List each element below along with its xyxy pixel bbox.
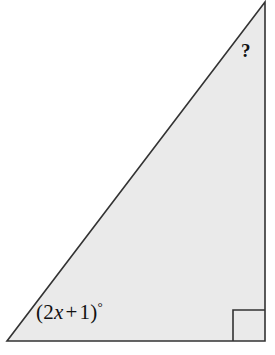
triangle-shape: [7, 2, 265, 341]
angle-expression-label: (2x+1)°: [36, 302, 103, 323]
right-triangle-diagram: (2x+1)° ?: [0, 0, 275, 355]
angle-constant: 1: [79, 300, 90, 324]
angle-variable: x: [54, 300, 64, 324]
degree-symbol-icon: °: [97, 299, 102, 314]
unknown-angle-label: ?: [241, 41, 251, 60]
angle-operator: +: [63, 300, 79, 324]
angle-coefficient: 2: [43, 300, 54, 324]
